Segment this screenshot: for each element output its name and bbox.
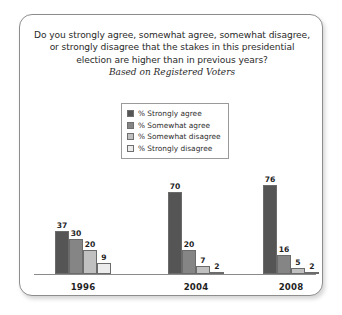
legend-item-label: % Strongly disagree	[138, 144, 212, 153]
bar-group-bars: 761652	[263, 180, 319, 274]
bar-column: 2	[210, 180, 224, 274]
bar-value-label: 9	[92, 253, 116, 262]
x-axis-group-label: 2004	[168, 282, 224, 292]
bar	[97, 263, 111, 274]
chart-title-block: Do you strongly agree, somewhat agree, s…	[30, 29, 314, 80]
bar-group: 37302091996	[55, 180, 111, 274]
legend-item-somewhat-agree: % Somewhat agree	[127, 120, 221, 132]
legend-item-label: % Somewhat agree	[138, 121, 210, 130]
bar-group-bars: 702072	[168, 180, 224, 274]
bar-column: 30	[69, 180, 83, 274]
legend-item-somewhat-disagree: % Somewhat disagree	[127, 131, 221, 143]
legend-item-strongly-disagree: % Strongly disagree	[127, 143, 221, 155]
bar	[263, 185, 277, 274]
legend-swatch-icon	[127, 122, 134, 129]
bar-column: 2	[305, 180, 319, 274]
legend-item-label: % Strongly agree	[138, 109, 202, 118]
chart-plot-area: 3730209199670207220047616522008	[20, 175, 324, 280]
bar-group: 7616522008	[263, 180, 319, 274]
bar-group: 7020722004	[168, 180, 224, 274]
bar-column: 70	[168, 180, 182, 274]
chart-legend: % Strongly agree % Somewhat agree % Some…	[121, 103, 229, 159]
legend-item-label: % Somewhat disagree	[138, 132, 221, 141]
bar-value-label: 2	[205, 262, 229, 271]
x-axis-line	[34, 274, 316, 275]
chart-title-line-1: Do you strongly agree, somewhat agree, s…	[30, 29, 314, 41]
legend-swatch-icon	[127, 110, 134, 117]
chart-title-line-2: or strongly disagree that the stakes in …	[30, 41, 314, 53]
bar-column: 76	[263, 180, 277, 274]
chart-title-line-3: election are higher than in previous yea…	[30, 54, 314, 66]
bar	[305, 272, 319, 274]
bar-value-label: 2	[300, 262, 324, 271]
bar	[168, 192, 182, 274]
x-axis-group-label: 1996	[55, 282, 111, 292]
legend-swatch-icon	[127, 145, 134, 152]
chart-card: Do you strongly agree, somewhat agree, s…	[19, 14, 323, 296]
legend-swatch-icon	[127, 133, 134, 140]
bar-column: 9	[97, 180, 111, 274]
chart-subtitle: Based on Registered Voters	[30, 66, 314, 80]
bar-column: 37	[55, 180, 69, 274]
bar-group-bars: 3730209	[55, 180, 111, 274]
bar-column: 5	[291, 180, 305, 274]
legend-item-strongly-agree: % Strongly agree	[127, 108, 221, 120]
bar	[210, 272, 224, 274]
x-axis-group-label: 2008	[263, 282, 319, 292]
bar-column: 7	[196, 180, 210, 274]
